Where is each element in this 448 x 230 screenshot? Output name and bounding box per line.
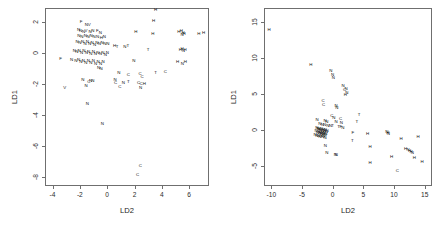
plot-area-right: HHNNNNCNNHCCNNTCNCNNNNNTNNNNNTTFNNNNNNNN… bbox=[264, 8, 432, 186]
data-point: N bbox=[335, 153, 338, 157]
y-tick bbox=[261, 130, 264, 131]
x-tick-label: 5 bbox=[361, 191, 365, 198]
data-point: N bbox=[106, 41, 109, 45]
y-tick bbox=[261, 22, 264, 23]
data-point: H bbox=[152, 19, 155, 23]
data-point: N bbox=[106, 51, 109, 55]
x-tick-label: -4 bbox=[50, 191, 56, 198]
x-tick bbox=[302, 186, 303, 189]
lda-scatter-figure: HHFNVNNNVNNFNNNNNNNNHNHHHHHHNHHNNNNNNNNN… bbox=[0, 0, 448, 230]
x-tick-label: 6 bbox=[187, 191, 191, 198]
x-tick-label: -10 bbox=[267, 191, 277, 198]
data-point: C bbox=[136, 173, 139, 177]
x-tick bbox=[135, 186, 136, 189]
x-tick bbox=[333, 186, 334, 189]
plot-area-left: HHFNVNNNVNNFNNNNNNNNHNHHHHHHNHHNNNNNNNNN… bbox=[45, 8, 209, 186]
data-point: N bbox=[91, 79, 94, 83]
y-tick bbox=[261, 58, 264, 59]
y-tick bbox=[42, 22, 45, 23]
data-point: N bbox=[335, 106, 338, 110]
y-tick bbox=[42, 177, 45, 178]
data-point: F bbox=[59, 57, 62, 61]
x-tick bbox=[80, 186, 81, 189]
x-tick-label: 2 bbox=[133, 191, 137, 198]
x-tick-label: 0 bbox=[105, 191, 109, 198]
data-point: N bbox=[323, 136, 326, 140]
y-tick-label: -4 bbox=[32, 109, 39, 121]
x-axis-title-left: LD2 bbox=[120, 206, 134, 215]
data-point: H bbox=[197, 32, 200, 36]
data-point: N bbox=[341, 126, 344, 130]
data-point: T bbox=[154, 70, 157, 74]
data-point: C bbox=[140, 75, 143, 79]
x-tick bbox=[271, 186, 272, 189]
y-tick-label: 10 bbox=[251, 52, 258, 64]
y-tick bbox=[42, 146, 45, 147]
data-point: H bbox=[368, 160, 371, 164]
data-point: H bbox=[184, 60, 187, 64]
y-tick bbox=[261, 94, 264, 95]
data-point: N bbox=[180, 32, 183, 36]
y-tick-label: 0 bbox=[251, 124, 258, 136]
y-tick-label: 5 bbox=[251, 88, 258, 100]
data-point: C bbox=[118, 85, 121, 89]
data-point: H bbox=[154, 8, 157, 12]
data-point: H bbox=[202, 31, 205, 35]
x-tick bbox=[394, 186, 395, 189]
y-tick-label: 0 bbox=[32, 47, 39, 59]
data-point: C bbox=[139, 164, 142, 168]
x-tick bbox=[53, 186, 54, 189]
data-point: C bbox=[127, 72, 130, 76]
y-tick-label: 15 bbox=[251, 16, 258, 28]
data-point: N bbox=[324, 144, 327, 148]
data-point: H bbox=[390, 155, 393, 159]
data-point: H bbox=[421, 159, 424, 163]
data-point: H bbox=[134, 30, 137, 34]
data-point: H bbox=[344, 93, 347, 97]
y-tick-label: 2 bbox=[32, 16, 39, 28]
data-point: T bbox=[116, 45, 119, 49]
data-point: C bbox=[164, 70, 167, 74]
x-tick-label: 10 bbox=[390, 191, 397, 198]
x-axis-title-right: LD2 bbox=[341, 206, 355, 215]
x-tick-label: 15 bbox=[421, 191, 428, 198]
y-axis-title-left: LD1 bbox=[10, 90, 19, 104]
x-tick bbox=[363, 186, 364, 189]
data-point: T bbox=[127, 80, 130, 84]
data-point: T bbox=[127, 44, 130, 48]
data-point: N bbox=[96, 34, 99, 38]
data-point: H bbox=[413, 156, 416, 160]
data-point: H bbox=[176, 60, 179, 64]
x-tick-label: 4 bbox=[160, 191, 164, 198]
data-point: N bbox=[101, 60, 104, 64]
data-point: C bbox=[322, 103, 325, 107]
data-point: H bbox=[268, 28, 271, 32]
x-tick bbox=[189, 186, 190, 189]
data-point: T bbox=[358, 113, 361, 117]
data-point: H bbox=[368, 145, 371, 149]
x-tick-label: -2 bbox=[77, 191, 83, 198]
y-tick-label: -6 bbox=[32, 140, 39, 152]
data-point: N bbox=[103, 34, 106, 38]
data-point: H bbox=[366, 131, 369, 135]
data-point: N bbox=[325, 151, 328, 155]
x-tick bbox=[107, 186, 108, 189]
data-point: T bbox=[351, 139, 354, 143]
data-point: F bbox=[352, 131, 355, 135]
data-point: F bbox=[80, 19, 83, 23]
data-point: N bbox=[132, 59, 135, 63]
data-point: V bbox=[63, 86, 66, 90]
scatter-panel-left: HHFNVNNNVNNFNNNNNNNNHNHHHHHHNHHNNNNNNNNN… bbox=[0, 0, 224, 230]
data-point: H bbox=[399, 137, 402, 141]
data-point: H bbox=[417, 135, 420, 139]
y-tick bbox=[42, 115, 45, 116]
data-point: N bbox=[387, 132, 390, 136]
data-point: H bbox=[151, 31, 154, 35]
data-point: H bbox=[309, 63, 312, 67]
y-axis-title-right: LD1 bbox=[229, 90, 238, 104]
data-point: N bbox=[332, 75, 335, 79]
y-tick-label: -8 bbox=[32, 171, 39, 183]
data-point: C bbox=[396, 169, 399, 173]
data-point: N bbox=[70, 58, 73, 62]
data-point: N bbox=[139, 86, 142, 90]
